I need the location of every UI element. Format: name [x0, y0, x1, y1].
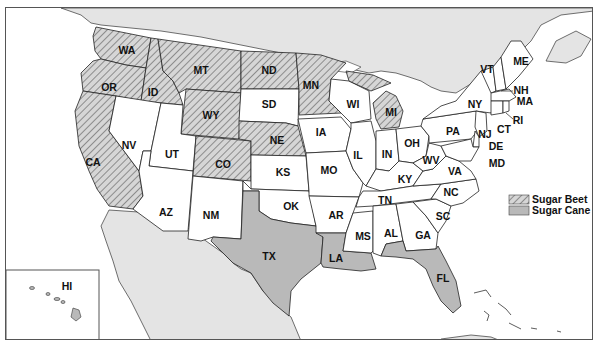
- label-wi: WI: [347, 98, 360, 110]
- label-ia: IA: [316, 126, 327, 138]
- label-sd: SD: [262, 98, 277, 110]
- hi-island-oahu: [46, 293, 50, 296]
- label-ok: OK: [283, 200, 299, 212]
- label-la: LA: [329, 252, 343, 264]
- label-id: ID: [148, 86, 159, 98]
- label-in: IN: [382, 148, 393, 160]
- label-tx: TX: [262, 250, 275, 262]
- label-ne: NE: [270, 134, 285, 146]
- label-oh: OH: [404, 137, 420, 149]
- cuba-region: [441, 335, 501, 340]
- label-nm: NM: [203, 209, 220, 221]
- label-nv: NV: [122, 139, 137, 151]
- state-ct[interactable]: [491, 101, 503, 115]
- label-az: AZ: [159, 206, 174, 218]
- label-ms: MS: [355, 230, 371, 242]
- label-ca: CA: [85, 156, 101, 168]
- label-or: OR: [101, 81, 117, 93]
- label-sc: SC: [436, 210, 451, 222]
- label-ut: UT: [165, 148, 180, 160]
- nova-scotia-region: [546, 31, 591, 63]
- label-nc: NC: [443, 186, 459, 198]
- hawaii-inset: HI: [6, 270, 99, 340]
- us-sugar-map: WA OR CA ID NV MT WY UT AZ CO NM ND SD N…: [6, 8, 593, 340]
- label-mn: MN: [303, 79, 319, 91]
- label-fl: FL: [437, 272, 450, 284]
- label-nd: ND: [261, 64, 277, 76]
- label-ct: CT: [497, 123, 512, 135]
- legend: Sugar Beet Sugar Cane: [509, 193, 591, 216]
- label-co: CO: [215, 158, 231, 170]
- label-me: ME: [513, 55, 529, 67]
- label-wv: WV: [423, 154, 440, 166]
- label-md: MD: [489, 157, 506, 169]
- bahamas-islands: [474, 290, 561, 332]
- hi-island-molokai: [61, 301, 65, 304]
- label-nj: NJ: [478, 128, 492, 140]
- label-mo: MO: [321, 164, 338, 176]
- label-hi: HI: [62, 280, 73, 292]
- label-de: DE: [489, 140, 504, 152]
- label-ri: RI: [513, 114, 524, 126]
- hi-island-maui: [54, 298, 60, 301]
- label-il: IL: [353, 149, 363, 161]
- label-ar: AR: [328, 209, 344, 221]
- sugar-cane-swatch: [509, 206, 529, 215]
- sugar-beet-swatch: [509, 195, 529, 204]
- label-mi: MI: [385, 106, 397, 118]
- label-mt: MT: [193, 64, 209, 76]
- label-pa: PA: [446, 125, 460, 137]
- label-ks: KS: [276, 166, 291, 178]
- label-va: VA: [448, 165, 462, 177]
- legend-label-sugar-cane: Sugar Cane: [532, 204, 591, 216]
- legend-item-sugar-cane: Sugar Cane: [509, 204, 591, 216]
- state-ri[interactable]: [503, 101, 509, 113]
- label-wa: WA: [119, 44, 136, 56]
- label-al: AL: [384, 227, 399, 239]
- label-ma: MA: [517, 95, 534, 107]
- label-tn: TN: [378, 194, 392, 206]
- label-ny: NY: [468, 98, 483, 110]
- label-wy: WY: [203, 109, 220, 121]
- label-ga: GA: [415, 229, 431, 241]
- map-frame: WA OR CA ID NV MT WY UT AZ CO NM ND SD N…: [5, 7, 593, 340]
- hi-island-kauai: [30, 287, 35, 290]
- label-vt: VT: [480, 63, 494, 75]
- label-ky: KY: [398, 173, 413, 185]
